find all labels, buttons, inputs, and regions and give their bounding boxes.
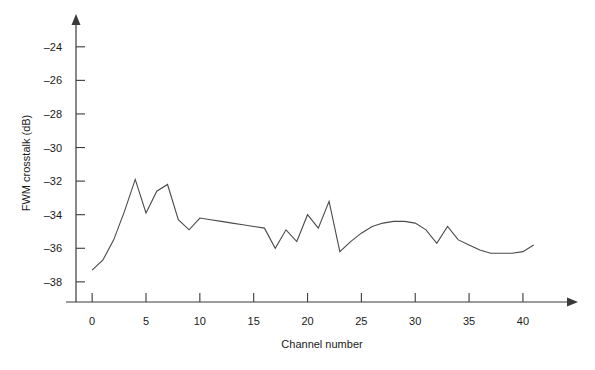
- x-tick-label: 40: [517, 315, 529, 327]
- y-tick-label: –32: [44, 175, 62, 187]
- x-tick-label: 35: [463, 315, 475, 327]
- chart-axes: [66, 14, 578, 307]
- x-axis-ticks: 0510152025303540: [89, 293, 529, 327]
- x-tick-label: 25: [355, 315, 367, 327]
- x-tick-label: 30: [409, 315, 421, 327]
- chart-figure: –24–26–28–30–32–34–36–38 051015202530354…: [0, 0, 595, 370]
- x-axis-arrow-icon: [567, 298, 578, 307]
- data-series-line: [92, 179, 534, 270]
- y-tick-label: –26: [44, 74, 62, 86]
- x-tick-label: 10: [194, 315, 206, 327]
- y-axis-arrow-icon: [72, 14, 81, 25]
- chart-plot-area: –24–26–28–30–32–34–36–38 051015202530354…: [0, 0, 595, 370]
- y-tick-label: –24: [44, 41, 62, 53]
- y-tick-label: –38: [44, 276, 62, 288]
- y-tick-label: –28: [44, 108, 62, 120]
- x-tick-label: 15: [248, 315, 260, 327]
- y-tick-label: –30: [44, 142, 62, 154]
- y-axis-title: FWM crosstalk (dB): [20, 115, 32, 212]
- y-axis-ticks: –24–26–28–30–32–34–36–38: [44, 41, 85, 288]
- y-tick-label: –34: [44, 209, 62, 221]
- y-tick-label: –36: [44, 242, 62, 254]
- x-tick-label: 0: [89, 315, 95, 327]
- x-tick-label: 5: [143, 315, 149, 327]
- x-tick-label: 20: [301, 315, 313, 327]
- x-axis-title: Channel number: [281, 338, 363, 350]
